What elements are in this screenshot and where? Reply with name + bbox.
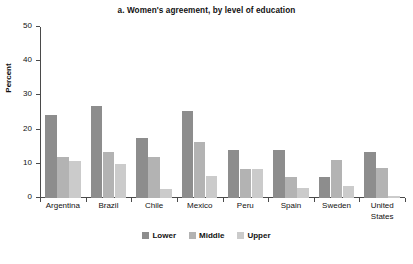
- y-tick: 20: [36, 129, 40, 130]
- x-axis-label-brazil: Brazil: [86, 201, 132, 212]
- bar-brazil-lower: [91, 106, 103, 198]
- y-tick: 50: [36, 26, 40, 27]
- bar-sweden-upper: [343, 186, 355, 198]
- bar-argentina-middle: [57, 157, 69, 198]
- plot-area: 01020304050: [40, 27, 405, 198]
- x-axis-labels: ArgentinaBrazilChileMexicoPeruSpainSwede…: [40, 201, 405, 231]
- y-tick: 30: [36, 94, 40, 95]
- bar-group: [91, 27, 127, 198]
- bar-group: [182, 27, 218, 198]
- legend-label: Middle: [199, 231, 224, 240]
- y-tick-label: 50: [10, 21, 32, 30]
- bar-group: [319, 27, 355, 198]
- legend-item-upper[interactable]: Upper: [237, 231, 270, 240]
- chart-container: a. Women's agreement, by level of educat…: [0, 0, 413, 264]
- bar-group: [364, 27, 400, 198]
- y-tick-label: 40: [10, 55, 32, 64]
- y-tick-label: 0: [10, 192, 32, 201]
- bar-united-states-middle: [376, 168, 388, 198]
- bar-mexico-lower: [182, 111, 194, 198]
- legend-swatch-icon: [142, 232, 149, 239]
- bar-chile-lower: [136, 138, 148, 198]
- bar-brazil-upper: [115, 164, 127, 198]
- legend-label: Lower: [152, 231, 176, 240]
- bar-united-states-lower: [364, 152, 376, 198]
- x-axis-label-sweden: Sweden: [314, 201, 360, 212]
- bar-united-states-upper: [388, 196, 400, 198]
- bar-spain-lower: [273, 150, 285, 198]
- y-tick: 40: [36, 60, 40, 61]
- bar-mexico-middle: [194, 142, 206, 198]
- bar-peru-middle: [240, 169, 252, 198]
- y-axis-line: [40, 27, 41, 198]
- bar-mexico-upper: [206, 176, 218, 198]
- legend-swatch-icon: [189, 232, 196, 239]
- bar-group: [228, 27, 264, 198]
- x-axis-label-peru: Peru: [223, 201, 269, 212]
- x-axis-label-united-states: United States: [359, 201, 405, 222]
- bar-spain-upper: [297, 188, 309, 198]
- legend-swatch-icon: [237, 232, 244, 239]
- bar-peru-upper: [252, 169, 264, 198]
- x-axis-label-chile: Chile: [131, 201, 177, 212]
- x-axis-label-argentina: Argentina: [40, 201, 86, 212]
- legend-item-lower[interactable]: Lower: [142, 231, 176, 240]
- bar-argentina-lower: [45, 115, 57, 198]
- y-tick: 10: [36, 163, 40, 164]
- bar-group: [45, 27, 81, 198]
- bar-chile-middle: [148, 157, 160, 198]
- legend-item-middle[interactable]: Middle: [189, 231, 224, 240]
- bar-group: [136, 27, 172, 198]
- legend-label: Upper: [247, 231, 270, 240]
- x-axis-label-mexico: Mexico: [177, 201, 223, 212]
- bar-sweden-lower: [319, 177, 331, 198]
- x-axis-label-spain: Spain: [268, 201, 314, 212]
- y-tick-label: 10: [10, 158, 32, 167]
- bar-brazil-middle: [103, 152, 115, 198]
- x-tick: [405, 198, 406, 202]
- y-tick-label: 20: [10, 124, 32, 133]
- y-tick-label: 30: [10, 89, 32, 98]
- chart-legend: LowerMiddleUpper: [0, 231, 413, 240]
- bar-spain-middle: [285, 177, 297, 198]
- bar-sweden-middle: [331, 160, 343, 198]
- bar-group: [273, 27, 309, 198]
- bar-peru-lower: [228, 150, 240, 198]
- bar-chile-upper: [160, 189, 172, 198]
- chart-title: a. Women's agreement, by level of educat…: [0, 6, 413, 15]
- bar-argentina-upper: [69, 161, 81, 198]
